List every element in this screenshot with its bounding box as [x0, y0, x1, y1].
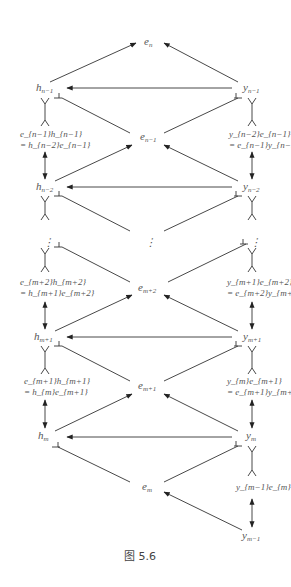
commutative-diagram: en hn−1 yn−1 en−1 e_{n−1}h_{n−1} = h_{n−… — [0, 0, 291, 587]
relation-left-top-1: e_{n−1}h_{n−1} — [20, 129, 82, 139]
node-y-n1: yn−1 — [242, 81, 260, 95]
vdots-right: ⋮ — [250, 236, 261, 248]
relation-right-low-2: = e_{m+1}y_{m+1} — [227, 387, 291, 397]
relation-right-top-2: = e_{n−1}y_{n−1} — [229, 140, 291, 150]
arrow-y-n2-to-e-n1 — [164, 145, 238, 181]
tail-y-m1-to-e-m1 — [164, 341, 242, 381]
node-h-m: hm — [38, 429, 49, 443]
tail-h-m1-to-e-m1 — [54, 341, 130, 381]
figure-caption: 图 5.6 — [124, 550, 156, 563]
node-y-m1: ym+1 — [242, 330, 261, 344]
epi-left-n2 — [41, 196, 49, 220]
tail-y-m-to-e-m — [164, 441, 242, 482]
relation-right-low-1: y_{m}e_{m+1} — [226, 376, 282, 386]
relation-left-top-2: = h_{n−2}e_{n−1} — [20, 140, 91, 150]
vdots-center: ⋮ — [145, 236, 156, 248]
epi-right-m — [248, 446, 256, 476]
relation-right-bottom: y_{m−1}e_{m} — [235, 482, 291, 492]
node-e-n1: en−1 — [140, 130, 157, 144]
arrow-y-n1-to-e-n — [164, 43, 238, 82]
node-y-mm1: ym−1 — [241, 529, 260, 543]
epi-right-m1 — [248, 346, 256, 374]
arrow-h-n1-to-e-n — [50, 43, 136, 82]
tail-y-n1-to-e-n1 — [164, 93, 242, 133]
relation-right-top-1: y_{n−2}e_{n−1} — [228, 129, 291, 139]
node-y-m: ym — [245, 429, 256, 443]
node-h-n2: hn−2 — [36, 180, 54, 194]
epi-mono-right-top — [248, 98, 256, 126]
relation-left-mid-1: e_{m+2}h_{m+2} — [20, 277, 86, 287]
tail-y-n2-to-dots — [164, 191, 242, 231]
arrow-y-m-to-e-m1 — [164, 394, 238, 431]
arrow-y-mm1-to-e-m — [164, 492, 242, 530]
epi-left-m1 — [41, 346, 49, 374]
arrow-y-m1-to-e-m2 — [164, 295, 238, 331]
tail-left-dots-to-e-m2 — [54, 242, 130, 282]
relation-right-mid-1: y_{m+1}e_{m+2} — [226, 277, 291, 287]
epi-left-dots — [41, 248, 49, 272]
vdots-left: ⋮ — [43, 236, 54, 248]
tail-h-n2-to-dots — [54, 191, 130, 231]
tail-right-dots-to-e-m2 — [168, 239, 248, 282]
epi-mono-left-top — [41, 98, 49, 126]
arrow-h-m-to-e-m1 — [55, 394, 132, 431]
node-h-m1: hm+1 — [34, 330, 53, 344]
node-y-n2: yn−2 — [242, 180, 260, 194]
relation-right-mid-2: = e_{m+2}y_{m+2} — [227, 288, 291, 298]
node-e-m2: em+2 — [138, 281, 157, 295]
tail-h-m-to-e-m — [52, 442, 130, 482]
epi-right-dots — [248, 248, 256, 272]
node-e-n: en — [144, 35, 153, 49]
node-e-m: em — [142, 480, 152, 494]
arrow-h-n2-to-e-n1 — [55, 145, 132, 181]
relation-left-low-2: = h_{m}e_{m+1} — [24, 387, 88, 397]
relation-left-low-1: e_{m+1}h_{m+1} — [24, 376, 90, 386]
arrow-h-m1-to-e-m2 — [55, 295, 132, 331]
tail-h-n1-to-e-n1 — [54, 93, 130, 133]
node-e-m1: em+1 — [138, 379, 156, 393]
node-h-n1: hn−1 — [36, 81, 53, 95]
relation-left-mid-2: = h_{m+1}e_{m+2} — [20, 288, 95, 298]
epi-right-n2 — [248, 196, 256, 220]
